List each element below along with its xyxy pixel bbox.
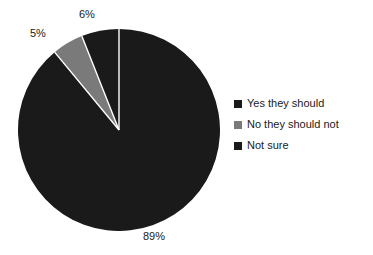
legend-item-not-sure[interactable]: Not sure: [234, 135, 370, 156]
chart-legend: Yes they should No they should not Not s…: [234, 93, 370, 156]
legend-swatch-icon: [234, 142, 242, 150]
pie-graphic: [18, 29, 220, 231]
pie-data-label-no-they-should-not: 5%: [30, 27, 46, 39]
legend-swatch-icon: [234, 100, 242, 108]
legend-swatch-icon: [234, 121, 242, 129]
legend-item-label: Yes they should: [247, 97, 324, 110]
pie-svg: [18, 29, 220, 231]
pie-data-label-not-sure: 6%: [79, 8, 95, 20]
pie-chart: 89% 5% 6% Yes they should No they should…: [0, 0, 373, 255]
legend-item-yes-they-should[interactable]: Yes they should: [234, 93, 370, 114]
pie-data-label-yes-they-should: 89%: [143, 230, 165, 242]
chart-title: [6, 0, 226, 3]
legend-item-label: Not sure: [247, 139, 289, 152]
legend-item-label: No they should not: [247, 118, 339, 131]
legend-item-no-they-should-not[interactable]: No they should not: [234, 114, 370, 135]
